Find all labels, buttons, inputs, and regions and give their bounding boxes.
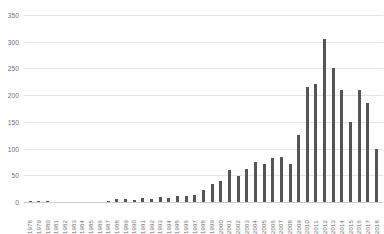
bar bbox=[263, 164, 266, 202]
x-tick-column: 2010 bbox=[303, 204, 312, 234]
y-tick-label: 150 bbox=[8, 118, 19, 125]
bar bbox=[280, 157, 283, 202]
x-tick-column: 1993 bbox=[156, 204, 165, 234]
bar bbox=[150, 199, 153, 202]
x-tick-label: 2018 bbox=[374, 204, 380, 234]
x-tick-column: 1988 bbox=[113, 204, 122, 234]
x-tick-label: 2008 bbox=[287, 204, 293, 234]
bar-chart: 050100150200250300350 197819791980198119… bbox=[0, 0, 384, 234]
y-tick-label: 50 bbox=[12, 172, 19, 179]
bar bbox=[349, 122, 352, 202]
x-tick-label: 1985 bbox=[88, 204, 94, 234]
x-tick-label: 2016 bbox=[356, 204, 362, 234]
x-tick-column: 2008 bbox=[286, 204, 295, 234]
bar-column bbox=[372, 15, 381, 202]
x-tick-column: 1986 bbox=[95, 204, 104, 234]
bar bbox=[115, 199, 118, 202]
x-tick-label: 2001 bbox=[226, 204, 232, 234]
x-tick-column: 2009 bbox=[294, 204, 303, 234]
bar bbox=[254, 162, 257, 202]
x-tick-column: 1978 bbox=[26, 204, 35, 234]
x-tick-label: 2002 bbox=[235, 204, 241, 234]
x-tick-label: 1995 bbox=[174, 204, 180, 234]
x-tick-column: 2018 bbox=[372, 204, 381, 234]
x-tick-column: 2017 bbox=[364, 204, 373, 234]
bar-column bbox=[329, 15, 338, 202]
y-tick-label: 350 bbox=[8, 12, 19, 19]
bar-column bbox=[346, 15, 355, 202]
bar-column bbox=[338, 15, 347, 202]
bar-column bbox=[364, 15, 373, 202]
x-tick-label: 2011 bbox=[313, 204, 319, 234]
x-tick-column: 1980 bbox=[43, 204, 52, 234]
bar-column bbox=[251, 15, 260, 202]
bar bbox=[289, 164, 292, 202]
x-tick-column: 2012 bbox=[320, 204, 329, 234]
x-tick-label: 1980 bbox=[45, 204, 51, 234]
x-tick-column: 2002 bbox=[234, 204, 243, 234]
bar-column bbox=[286, 15, 295, 202]
bar-column bbox=[208, 15, 217, 202]
x-tick-column: 1996 bbox=[182, 204, 191, 234]
bar-column bbox=[165, 15, 174, 202]
bar bbox=[297, 135, 300, 202]
bar-column bbox=[190, 15, 199, 202]
bar-column bbox=[303, 15, 312, 202]
x-tick-column: 2003 bbox=[242, 204, 251, 234]
bar-column bbox=[113, 15, 122, 202]
x-tick-column: 1990 bbox=[130, 204, 139, 234]
x-tick-label: 1982 bbox=[62, 204, 68, 234]
x-tick-label: 1991 bbox=[140, 204, 146, 234]
x-tick-column: 1992 bbox=[147, 204, 156, 234]
x-tick-column: 2013 bbox=[329, 204, 338, 234]
bar bbox=[124, 199, 127, 202]
bar-column bbox=[355, 15, 364, 202]
bar bbox=[271, 158, 274, 202]
x-tick-column: 1999 bbox=[208, 204, 217, 234]
bar-column bbox=[173, 15, 182, 202]
bar-column bbox=[242, 15, 251, 202]
bar bbox=[211, 184, 214, 202]
x-tick-label: 1992 bbox=[149, 204, 155, 234]
x-tick-label: 2017 bbox=[365, 204, 371, 234]
x-axis-labels: 1978197919801981198219831984198519861987… bbox=[24, 204, 383, 234]
bar-column bbox=[216, 15, 225, 202]
bar-column bbox=[52, 15, 61, 202]
bar bbox=[314, 84, 317, 202]
bar-column bbox=[78, 15, 87, 202]
x-tick-label: 1984 bbox=[79, 204, 85, 234]
x-tick-label: 1987 bbox=[105, 204, 111, 234]
x-tick-label: 1997 bbox=[192, 204, 198, 234]
plot-area bbox=[24, 15, 383, 202]
x-tick-column: 1989 bbox=[121, 204, 130, 234]
x-tick-label: 1993 bbox=[157, 204, 163, 234]
bar-column bbox=[69, 15, 78, 202]
bar bbox=[159, 197, 162, 202]
x-tick-column: 1987 bbox=[104, 204, 113, 234]
x-tick-column: 1991 bbox=[139, 204, 148, 234]
bar-column bbox=[95, 15, 104, 202]
bar bbox=[219, 181, 222, 202]
x-tick-label: 1988 bbox=[114, 204, 120, 234]
x-tick-column: 1985 bbox=[87, 204, 96, 234]
bar bbox=[366, 103, 369, 202]
x-tick-label: 2013 bbox=[330, 204, 336, 234]
x-tick-label: 1990 bbox=[131, 204, 137, 234]
bar-column bbox=[312, 15, 321, 202]
bar bbox=[202, 190, 205, 202]
x-tick-column: 1979 bbox=[35, 204, 44, 234]
x-tick-column: 2014 bbox=[338, 204, 347, 234]
bar-column bbox=[260, 15, 269, 202]
bar-column bbox=[182, 15, 191, 202]
x-tick-label: 2007 bbox=[278, 204, 284, 234]
x-tick-column: 2004 bbox=[251, 204, 260, 234]
bar-column bbox=[43, 15, 52, 202]
bar bbox=[185, 196, 188, 202]
bar bbox=[46, 201, 49, 202]
bar-column bbox=[268, 15, 277, 202]
bar-column bbox=[234, 15, 243, 202]
x-tick-label: 2000 bbox=[218, 204, 224, 234]
x-tick-label: 1994 bbox=[166, 204, 172, 234]
y-tick-label: 0 bbox=[15, 199, 19, 206]
bar-column bbox=[26, 15, 35, 202]
